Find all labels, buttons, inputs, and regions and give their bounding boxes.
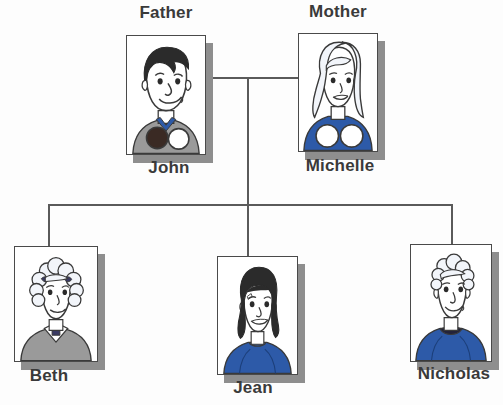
card-frame <box>298 33 378 152</box>
sibling-connector-bar <box>48 204 452 206</box>
marriage-connector-line <box>206 77 298 79</box>
person-card-beth[interactable] <box>14 246 98 362</box>
connector-to-jean <box>247 204 249 256</box>
portrait-john <box>127 36 205 154</box>
name-label-jean: Jean <box>216 378 290 398</box>
person-card-nicholas[interactable] <box>410 244 492 362</box>
portrait-beth <box>15 247 97 361</box>
person-card-michelle[interactable] <box>298 33 378 152</box>
family-tree-diagram: Father <box>0 0 503 405</box>
portrait-michelle <box>299 34 377 151</box>
card-frame <box>410 244 492 362</box>
name-label-john: John <box>126 158 212 178</box>
card-frame <box>126 35 206 155</box>
name-label-beth: Beth <box>13 366 85 386</box>
portrait-jean <box>218 257 297 374</box>
father-role-label: Father <box>126 3 206 23</box>
connector-to-beth <box>48 204 50 246</box>
card-frame <box>14 246 98 362</box>
connector-to-nicholas <box>451 204 453 244</box>
name-label-michelle: Michelle <box>294 156 386 176</box>
card-frame <box>217 256 298 375</box>
portrait-nicholas <box>411 245 491 361</box>
person-card-john[interactable] <box>126 35 206 155</box>
person-card-jean[interactable] <box>217 256 298 375</box>
mother-role-label: Mother <box>298 2 378 22</box>
descent-connector-line <box>247 77 249 205</box>
name-label-nicholas: Nicholas <box>405 364 503 384</box>
